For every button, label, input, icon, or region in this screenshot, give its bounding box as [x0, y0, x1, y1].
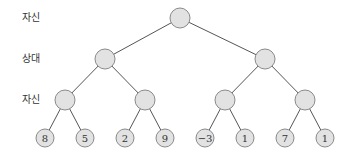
leaf-value: 7 — [282, 133, 288, 144]
self-node — [135, 90, 155, 110]
self-node — [295, 90, 315, 110]
tree-edges — [45, 18, 325, 138]
leaf-value: −3 — [198, 133, 213, 144]
leaf-value: 9 — [162, 133, 168, 144]
self-node — [55, 90, 75, 110]
opponent-node — [255, 49, 275, 69]
opponent-node — [95, 49, 115, 69]
leaf-value: 2 — [122, 133, 128, 144]
game-tree: 8529−3171 — [0, 0, 355, 157]
tree-nodes: 8529−3171 — [36, 8, 334, 147]
leaf-value: 1 — [322, 133, 328, 144]
leaf-value: 5 — [82, 133, 88, 144]
tree-edge — [105, 18, 180, 59]
tree-edge — [180, 18, 265, 59]
leaf-value: 8 — [42, 133, 48, 144]
root-node — [170, 8, 190, 28]
self-node — [215, 90, 235, 110]
leaf-value: 1 — [242, 133, 248, 144]
